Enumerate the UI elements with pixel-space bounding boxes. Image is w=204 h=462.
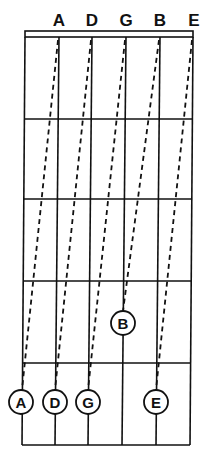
guide-a	[22, 40, 58, 390]
guide-b	[123, 40, 159, 311]
note-a: A	[9, 390, 33, 414]
string-label-g: G	[119, 11, 132, 30]
note-d: D	[43, 390, 67, 414]
note-label-d: D	[50, 394, 61, 411]
string-labels: A D G B E	[53, 11, 200, 30]
fretboard-diagram: A D G B E A D	[0, 0, 204, 462]
note-label-a: A	[16, 394, 27, 411]
string-label-b: B	[154, 11, 166, 30]
guide-g	[88, 40, 125, 390]
string-label-e: E	[188, 11, 199, 30]
note-b: B	[111, 311, 135, 335]
guide-e	[156, 40, 192, 390]
note-label-b: B	[118, 315, 129, 332]
string-4	[122, 37, 126, 445]
string-label-a: A	[53, 11, 65, 30]
note-g: G	[76, 390, 100, 414]
strings	[22, 37, 193, 445]
string-label-d: D	[86, 11, 98, 30]
note-e: E	[144, 390, 168, 414]
unison-guides	[22, 40, 192, 390]
note-label-g: G	[82, 394, 94, 411]
string-6	[190, 37, 193, 445]
guide-d	[55, 40, 91, 390]
note-label-e: E	[151, 394, 161, 411]
nut	[25, 31, 193, 37]
